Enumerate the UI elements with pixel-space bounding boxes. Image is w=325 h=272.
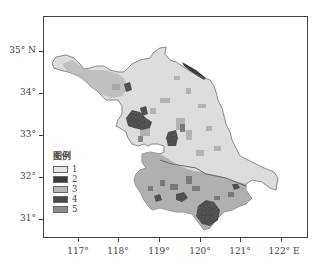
x-tick-120 <box>200 238 201 242</box>
y-tick-33 <box>39 135 44 136</box>
y-label-34: 34° <box>4 87 36 97</box>
legend-item-2: 2 <box>53 174 77 184</box>
map-legend: 图例 1 2 3 4 5 <box>53 149 77 214</box>
x-tick-122 <box>281 238 282 242</box>
y-label-35: 35° N <box>4 45 36 55</box>
y-label-33: 33° <box>4 129 36 139</box>
legend-swatch-3 <box>53 186 68 193</box>
y-label-31: 31° <box>4 213 36 223</box>
legend-swatch-5 <box>53 206 68 213</box>
x-label-121: 121° <box>222 246 258 256</box>
y-tick-35 <box>39 51 44 52</box>
y-tick-34 <box>39 93 44 94</box>
legend-swatch-4 <box>53 196 68 203</box>
x-tick-117 <box>78 238 79 242</box>
legend-label-5: 5 <box>72 204 77 214</box>
x-label-122: 122° E <box>266 246 302 256</box>
map-canvas <box>0 0 325 272</box>
y-tick-31 <box>39 219 44 220</box>
x-tick-121 <box>240 238 241 242</box>
legend-swatch-1 <box>53 166 68 173</box>
x-label-119: 119° <box>141 246 177 256</box>
legend-label-2: 2 <box>72 174 77 184</box>
x-label-117: 117° <box>60 246 96 256</box>
legend-label-4: 4 <box>72 194 77 204</box>
legend-item-1: 1 <box>53 164 77 174</box>
legend-swatch-2 <box>53 176 68 183</box>
legend-item-3: 3 <box>53 184 77 194</box>
x-label-118: 118° <box>100 246 136 256</box>
legend-title: 图例 <box>53 149 77 162</box>
y-tick-32 <box>39 177 44 178</box>
y-label-32: 32° <box>4 171 36 181</box>
legend-label-3: 3 <box>72 184 77 194</box>
legend-label-1: 1 <box>72 164 77 174</box>
legend-item-5: 5 <box>53 204 77 214</box>
legend-item-4: 4 <box>53 194 77 204</box>
x-tick-118 <box>118 238 119 242</box>
x-label-120: 120° <box>182 246 218 256</box>
x-tick-119 <box>159 238 160 242</box>
